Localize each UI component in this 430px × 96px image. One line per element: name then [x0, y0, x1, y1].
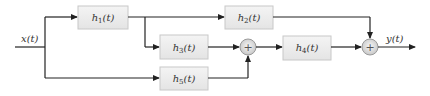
- h5-output-wire: [208, 56, 248, 78]
- plus-icon: +: [243, 41, 252, 54]
- summer-2: +: [362, 39, 378, 55]
- output-label: y(t): [385, 33, 404, 44]
- summer-1: +: [240, 39, 256, 55]
- block-h4: h4(t): [283, 36, 331, 60]
- block-h3: h3(t): [160, 35, 208, 59]
- block-h1: h1(t): [78, 6, 128, 29]
- block-h2: h2(t): [225, 6, 273, 29]
- block-diagram: x(t) h1(t) h2(t) h3(t) h5(t) +: [0, 0, 430, 96]
- input-label: x(t): [21, 33, 39, 44]
- block-h5: h5(t): [160, 67, 208, 90]
- h2-output-wire: [273, 17, 370, 38]
- plus-icon: +: [365, 41, 374, 54]
